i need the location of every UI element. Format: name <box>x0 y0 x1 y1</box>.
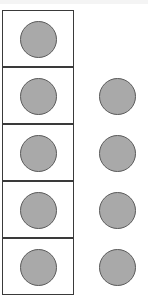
counter-circle-icon <box>20 192 57 229</box>
counter-circle-icon <box>20 249 57 286</box>
counter-circle-icon <box>20 78 57 115</box>
top-edge-strip <box>0 0 148 4</box>
counter-circle-icon <box>99 135 136 172</box>
counter-circle-icon <box>99 192 136 229</box>
counter-circle-icon <box>20 135 57 172</box>
counter-circle-icon <box>99 78 136 115</box>
counter-circle-icon <box>20 21 57 58</box>
counter-circle-icon <box>99 249 136 286</box>
